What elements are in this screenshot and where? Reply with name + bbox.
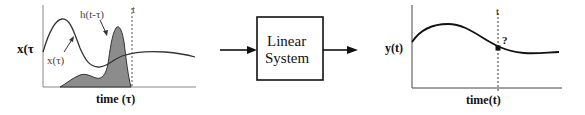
query-point [496, 46, 501, 51]
input-arrowhead [247, 46, 257, 54]
kernel-annotation-arrowhead [103, 30, 108, 36]
left-marker-label: t [132, 4, 135, 15]
output-curve [412, 24, 559, 53]
system-label-line1: Linear [267, 34, 306, 49]
right-y-label: y(t) [385, 42, 403, 54]
left-y-label: x(τ [17, 42, 34, 55]
input-curve-label: x(τ) [47, 55, 64, 66]
left-plot [43, 5, 196, 87]
output-arrowhead [347, 46, 358, 54]
input-annotation-arrowhead [69, 36, 74, 42]
left-x-label: time (τ) [96, 93, 135, 105]
right-marker-label: t [496, 6, 499, 17]
right-x-label: time(t) [466, 94, 501, 106]
kernel-label: h(t-τ) [80, 9, 104, 20]
system-label-line2: System [265, 51, 309, 66]
query-label: ? [502, 35, 508, 46]
right-plot [412, 5, 562, 92]
